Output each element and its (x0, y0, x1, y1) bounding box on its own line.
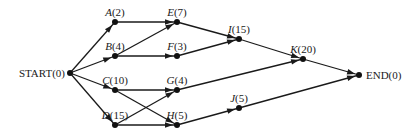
arrowhead-icon (165, 92, 173, 98)
node-dot-icon (174, 122, 180, 128)
node-dot-icon (174, 53, 180, 59)
node-duration: (0) (389, 69, 402, 82)
node-label: K(20) (289, 43, 316, 56)
node-duration: (7) (174, 6, 187, 19)
node-label: START(0) (19, 67, 65, 80)
node-dot-icon (67, 70, 73, 76)
node-start: START(0) (19, 67, 73, 80)
edge-d-to-h (115, 122, 177, 128)
edge-b-to-f (115, 53, 177, 59)
node-duration: (4) (112, 40, 125, 53)
node-j: J(5) (230, 92, 248, 111)
node-label: D(15) (101, 109, 129, 122)
node-dot-icon (112, 19, 118, 25)
node-duration: (15) (232, 23, 251, 36)
node-letter: START (19, 67, 53, 79)
node-duration: (3) (174, 40, 187, 53)
node-duration: (0) (52, 67, 65, 80)
edge-a-to-e (115, 19, 177, 25)
node-duration: (10) (110, 74, 129, 87)
node-label: B(4) (105, 40, 125, 53)
node-dot-icon (174, 19, 180, 25)
arrowhead-icon (165, 53, 173, 59)
arrowhead-icon (291, 59, 299, 64)
node-dot-icon (236, 105, 242, 111)
node-label: E(7) (166, 6, 187, 19)
node-dot-icon (174, 87, 180, 93)
node-dot-icon (112, 87, 118, 93)
node-duration: (4) (175, 74, 188, 87)
arrowhead-icon (165, 19, 173, 25)
edge-c-to-g (115, 87, 177, 93)
edge-k-to-end (303, 59, 359, 75)
node-letter: END (366, 69, 389, 81)
activity-network-diagram: START(0)A(2)B(4)C(10)D(15)E(7)F(3)G(4)H(… (0, 0, 420, 140)
arrowhead-icon (347, 75, 355, 80)
node-dot-icon (112, 53, 118, 59)
nodes-layer: START(0)A(2)B(4)C(10)D(15)E(7)F(3)G(4)H(… (19, 6, 402, 128)
node-label: H(5) (166, 109, 188, 122)
node-i: I(15) (227, 23, 250, 42)
node-dot-icon (300, 56, 306, 62)
arrowhead-icon (347, 69, 355, 74)
arrowhead-icon (165, 87, 173, 93)
node-label: F(3) (166, 40, 187, 53)
node-k: K(20) (289, 43, 316, 62)
node-label: A(2) (104, 6, 125, 19)
node-duration: (2) (112, 6, 125, 19)
node-duration: (20) (298, 43, 317, 56)
arrowhead-icon (103, 57, 111, 62)
node-dot-icon (356, 72, 362, 78)
node-duration: (5) (175, 109, 188, 122)
arrowhead-icon (165, 122, 173, 128)
arrowhead-icon (165, 24, 173, 30)
node-label: C(10) (102, 74, 128, 87)
node-dot-icon (112, 122, 118, 128)
node-label: J(5) (230, 92, 248, 105)
node-letter: D (101, 109, 110, 121)
edge-g-to-k (177, 59, 303, 90)
node-label: I(15) (227, 23, 250, 36)
node-label: END(0) (366, 69, 402, 82)
node-end: END(0) (356, 69, 402, 82)
node-duration: (15) (110, 109, 129, 122)
edge-j-to-end (239, 75, 359, 108)
arrowhead-icon (227, 39, 235, 44)
node-dot-icon (236, 36, 242, 42)
node-letter: G (167, 74, 175, 86)
arrowhead-icon (227, 108, 235, 113)
node-duration: (5) (235, 92, 248, 105)
node-label: G(4) (167, 74, 188, 87)
